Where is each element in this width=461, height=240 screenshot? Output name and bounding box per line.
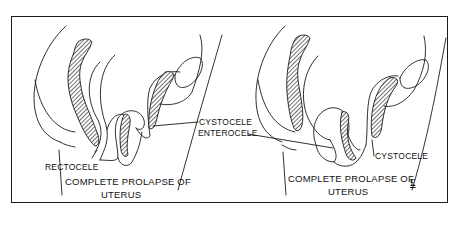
rectum-shape-right [287, 35, 310, 131]
label-rectocele: RECTOCELE [45, 163, 99, 172]
rectum-shape [68, 39, 99, 146]
caption-left-line2: UTERUS [101, 190, 141, 200]
caption-right-line1: COMPLETE PROLAPSE OF [288, 174, 414, 184]
caption-left-line1: COMPLETE PROLAPSE OF [65, 177, 191, 187]
signature-mark: £ [410, 176, 416, 188]
caption-right-line2: UTERUS [328, 187, 368, 197]
label-cystocele-right: CYSTOCELE [375, 152, 428, 161]
label-cystocele-center: CYSTOCELE [199, 118, 252, 127]
right-panel-drawing [248, 26, 446, 195]
uterine-canal-shape [120, 114, 130, 156]
bladder-shape [149, 71, 174, 128]
label-enterocele: ENTEROCELE [198, 129, 258, 138]
bladder-shape-right [371, 77, 397, 137]
